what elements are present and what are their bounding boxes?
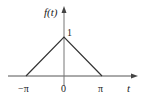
t-axis-arrow-icon (131, 74, 138, 79)
tick-label-pi: π (98, 83, 103, 94)
peak-label: 1 (67, 27, 72, 38)
y-axis-label: f(t) (44, 6, 58, 19)
x-axis-label: t (127, 82, 131, 94)
tick-label-neg-pi: −π (18, 83, 29, 94)
tick-label-zero: 0 (61, 83, 66, 94)
triangle-function-diagram: f(t) 1 −π 0 π t (0, 0, 145, 101)
f-axis-arrow-icon (62, 6, 67, 13)
